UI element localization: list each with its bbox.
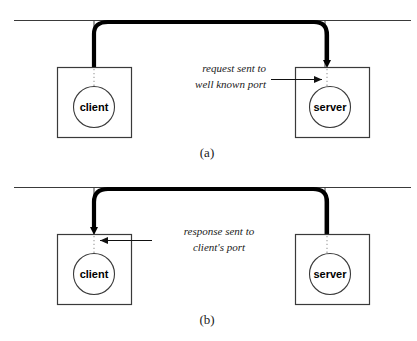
- annotation-line1-a: request sent to: [202, 62, 266, 74]
- client-host-a: client: [58, 68, 132, 138]
- server-host-b: server: [296, 235, 370, 305]
- panel-caption-a: (a): [200, 145, 214, 160]
- server-host-a: server: [296, 68, 370, 138]
- server-label-b: server: [313, 268, 347, 280]
- annotation-line1-b: response sent to: [184, 225, 255, 237]
- annotation-line2-b: client's port: [193, 241, 246, 253]
- client-label-a: client: [80, 101, 109, 113]
- client-label-b: client: [80, 268, 109, 280]
- panel-b: client server response sent to client's …: [14, 188, 411, 328]
- client-server-port-diagram: client server request sent to well known…: [0, 0, 417, 341]
- panel-caption-b: (b): [199, 312, 214, 327]
- annotation-line2-a: well known port: [195, 78, 267, 90]
- client-host-b: client: [58, 235, 132, 305]
- request-flow-path-a: [94, 22, 327, 67]
- server-label-a: server: [313, 101, 347, 113]
- panel-a: client server request sent to well known…: [14, 21, 411, 161]
